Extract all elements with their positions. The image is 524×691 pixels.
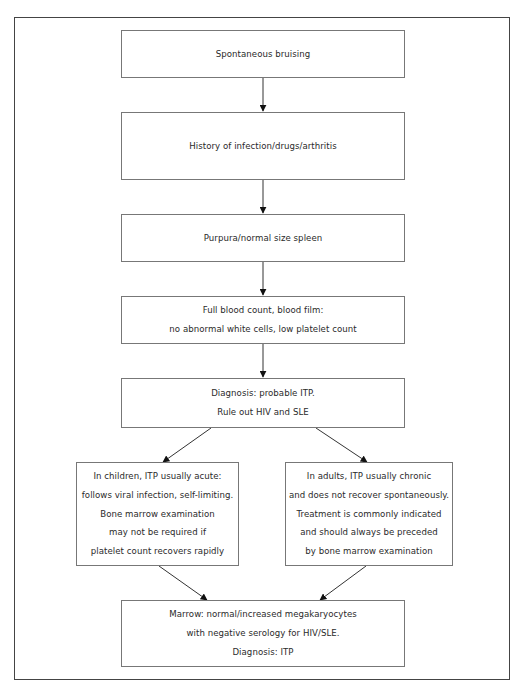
node-probable-itp: Diagnosis: probable ITP. Rule out HIV an… xyxy=(121,378,405,428)
node-text: Spontaneous bruising xyxy=(216,45,311,64)
node-text: may not be required if xyxy=(109,523,206,542)
node-diagnosis-itp: Marrow: normal/increased megakaryocytes … xyxy=(121,600,405,667)
node-text: follows viral infection, self-limiting. xyxy=(82,486,233,505)
arrow-n5-n6 xyxy=(163,428,211,462)
node-text: Diagnosis: ITP xyxy=(232,643,293,662)
node-text: and does not recover spontaneously. xyxy=(289,486,449,505)
node-text: Purpura/normal size spleen xyxy=(204,229,323,248)
node-text: platelet count recovers rapidly xyxy=(91,542,224,561)
arrow-n5-n7 xyxy=(316,428,367,462)
node-text: Marrow: normal/increased megakaryocytes xyxy=(169,605,357,624)
node-text: and should always be preceded xyxy=(300,523,438,542)
node-purpura: Purpura/normal size spleen xyxy=(121,214,405,262)
node-text: no abnormal white cells, low platelet co… xyxy=(169,320,356,339)
arrow-n6-n8 xyxy=(159,566,207,600)
node-children: In children, ITP usually acute: follows … xyxy=(76,462,239,566)
node-text: In children, ITP usually acute: xyxy=(93,467,221,486)
node-text: Treatment is commonly indicated xyxy=(296,505,441,524)
node-spontaneous-bruising: Spontaneous bruising xyxy=(121,30,405,78)
node-adults: In adults, ITP usually chronic and does … xyxy=(285,462,453,566)
arrow-n7-n8 xyxy=(320,566,366,600)
node-text: with negative serology for HIV/SLE. xyxy=(186,624,339,643)
node-blood-count: Full blood count, blood film: no abnorma… xyxy=(121,296,405,344)
node-text: Rule out HIV and SLE xyxy=(217,403,308,422)
node-text: by bone marrow examination xyxy=(305,542,433,561)
node-text: Full blood count, blood film: xyxy=(203,301,324,320)
node-text: Diagnosis: probable ITP. xyxy=(211,384,315,403)
node-text: Bone marrow examination xyxy=(100,505,215,524)
node-history: History of infection/drugs/arthritis xyxy=(121,112,405,180)
node-text: History of infection/drugs/arthritis xyxy=(189,137,336,156)
node-text: In adults, ITP usually chronic xyxy=(307,467,431,486)
flow-arrows xyxy=(0,0,524,691)
